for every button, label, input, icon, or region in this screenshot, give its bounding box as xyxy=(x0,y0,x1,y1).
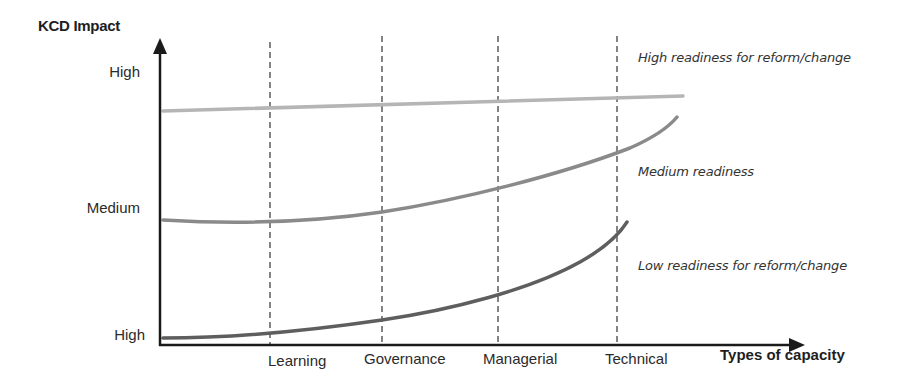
label-high-readiness: High readiness for reform/change xyxy=(638,50,851,65)
x-tick-governance: Governance xyxy=(364,350,446,367)
label-low-readiness: Low readiness for reform/change xyxy=(638,258,847,273)
label-medium-readiness: Medium readiness xyxy=(638,164,754,179)
y-tick-high-top: High xyxy=(20,63,140,80)
series-medium-readiness-line xyxy=(163,117,677,222)
y-axis-arrow-icon xyxy=(153,38,167,54)
kcd-impact-chart: KCD Impact Types of capacity High Medium… xyxy=(0,0,910,392)
series-high-readiness-line xyxy=(163,96,683,111)
x-axis-title: Types of capacity xyxy=(720,346,845,363)
category-gridlines xyxy=(270,36,617,345)
axes xyxy=(153,38,805,352)
y-axis-title: KCD Impact xyxy=(38,17,120,34)
x-tick-learning: Learning xyxy=(268,352,326,369)
x-tick-managerial: Managerial xyxy=(483,350,557,367)
x-tick-technical: Technical xyxy=(605,350,668,367)
y-tick-medium: Medium xyxy=(20,199,140,216)
series-low-readiness-line xyxy=(163,222,627,338)
y-tick-high-bottom: High xyxy=(25,326,145,343)
